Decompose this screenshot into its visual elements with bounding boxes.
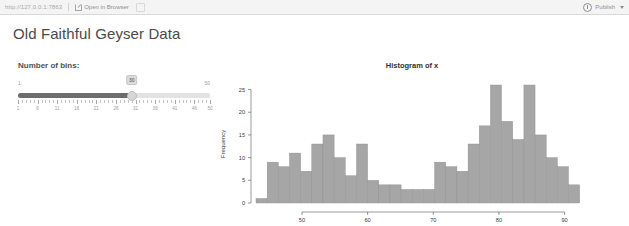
slider-label: Number of bins: bbox=[18, 61, 210, 70]
histogram-bar bbox=[256, 198, 267, 203]
slider-tick bbox=[120, 100, 121, 103]
slider-tick-label: 11 bbox=[55, 106, 60, 111]
slider-tick bbox=[77, 100, 78, 104]
y-tick-label: 0 bbox=[242, 200, 245, 206]
chevron-down-icon bbox=[620, 6, 624, 9]
slider-tick bbox=[81, 100, 82, 103]
histogram-bar bbox=[379, 185, 390, 203]
histogram-bar bbox=[557, 167, 568, 203]
slider-tick-label: 31 bbox=[133, 106, 138, 111]
histogram-bar bbox=[535, 135, 546, 203]
slider-tick bbox=[186, 100, 187, 103]
slider-tick bbox=[42, 100, 43, 103]
slider-tick bbox=[22, 100, 23, 103]
histogram-bar bbox=[345, 176, 356, 203]
y-tick-label: 15 bbox=[239, 132, 245, 138]
histogram-bar bbox=[401, 189, 412, 203]
histogram-svg: 0510152025Frequency5060708090x bbox=[212, 55, 612, 226]
slider-tick bbox=[45, 100, 46, 103]
slider-tick-label: 41 bbox=[172, 106, 177, 111]
open-in-browser-button[interactable]: Open in Browser bbox=[75, 4, 129, 11]
histogram-bar bbox=[267, 162, 278, 203]
y-tick-label: 25 bbox=[239, 87, 245, 93]
slider-tick bbox=[175, 100, 176, 104]
slider-tick bbox=[206, 100, 207, 103]
bins-slider[interactable]: 1 50 30 16111621263136414650 bbox=[18, 80, 210, 114]
y-tick-label: 5 bbox=[242, 177, 245, 183]
slider-tick bbox=[128, 100, 129, 103]
slider-tick bbox=[92, 100, 93, 103]
viewer-toolbar: http://127.0.0.1:7863 Open in Browser Pu… bbox=[0, 0, 629, 15]
histogram-bar bbox=[289, 153, 300, 203]
x-tick-label: 50 bbox=[299, 217, 305, 223]
slider-track[interactable] bbox=[18, 93, 210, 98]
slider-tick bbox=[194, 100, 195, 104]
slider-panel: Number of bins: 1 50 30 1611162126313641… bbox=[18, 61, 210, 114]
slider-min-label: 1 bbox=[18, 80, 21, 86]
x-tick-label: 70 bbox=[430, 217, 436, 223]
publish-label: Publish bbox=[595, 4, 615, 10]
histogram-bar bbox=[356, 144, 367, 203]
slider-tick bbox=[34, 100, 35, 103]
slider-tick bbox=[190, 100, 191, 103]
histogram-bar bbox=[502, 121, 513, 203]
slider-tick bbox=[69, 100, 70, 103]
slider-tick-marks: 16111621263136414650 bbox=[18, 100, 210, 114]
slider-tick bbox=[53, 100, 54, 103]
slider-tick bbox=[202, 100, 203, 103]
histogram-bar bbox=[412, 189, 423, 203]
publish-icon bbox=[583, 3, 592, 12]
slider-tick bbox=[179, 100, 180, 103]
histogram-bar bbox=[479, 126, 490, 203]
slider-tick bbox=[116, 100, 117, 104]
external-link-icon bbox=[75, 4, 82, 11]
slider-handle[interactable] bbox=[127, 91, 137, 101]
slider-tick bbox=[210, 100, 211, 104]
slider-tick bbox=[96, 100, 97, 104]
slider-tick bbox=[155, 100, 156, 104]
histogram-bar bbox=[390, 185, 401, 203]
histogram-bar bbox=[323, 135, 334, 203]
publish-button[interactable]: Publish bbox=[583, 3, 624, 12]
slider-tick bbox=[139, 100, 140, 103]
slider-tick bbox=[151, 100, 152, 103]
slider-tick-label: 36 bbox=[153, 106, 158, 111]
histogram-bar bbox=[569, 185, 580, 203]
refresh-icon[interactable] bbox=[136, 3, 145, 12]
slider-tick bbox=[18, 100, 19, 104]
slider-tick bbox=[26, 100, 27, 103]
slider-tick-label: 26 bbox=[113, 106, 118, 111]
y-tick-label: 20 bbox=[239, 109, 245, 115]
viewer-url[interactable]: http://127.0.0.1:7863 bbox=[5, 4, 62, 10]
slider-tick bbox=[49, 100, 50, 103]
slider-tick-label: 21 bbox=[94, 106, 99, 111]
slider-fill bbox=[18, 93, 132, 98]
histogram-bar bbox=[368, 180, 379, 203]
shiny-app-body: Old Faithful Geyser Data Number of bins:… bbox=[0, 15, 629, 226]
slider-max-label: 50 bbox=[204, 80, 210, 86]
histogram-bar bbox=[446, 167, 457, 203]
slider-tick bbox=[159, 100, 160, 103]
x-tick-label: 80 bbox=[496, 217, 502, 223]
open-in-browser-label: Open in Browser bbox=[84, 4, 129, 10]
slider-value-bubble: 30 bbox=[126, 75, 138, 85]
slider-tick bbox=[85, 100, 86, 103]
page-title: Old Faithful Geyser Data bbox=[13, 25, 180, 42]
slider-tick bbox=[89, 100, 90, 103]
histogram-bar bbox=[312, 144, 323, 203]
histogram-bar bbox=[457, 171, 468, 203]
histogram-bar bbox=[546, 158, 557, 203]
slider-tick bbox=[30, 100, 31, 103]
histogram-bar bbox=[513, 139, 524, 203]
histogram-bar bbox=[301, 171, 312, 203]
x-tick-label: 90 bbox=[561, 217, 567, 223]
histogram-bar bbox=[278, 167, 289, 203]
slider-tick bbox=[100, 100, 101, 103]
slider-tick bbox=[57, 100, 58, 104]
y-tick-label: 10 bbox=[239, 155, 245, 161]
slider-tick bbox=[143, 100, 144, 103]
x-tick-label: 60 bbox=[365, 217, 371, 223]
slider-tick-label: 16 bbox=[74, 106, 79, 111]
slider-tick bbox=[65, 100, 66, 103]
toolbar-divider bbox=[68, 3, 69, 11]
